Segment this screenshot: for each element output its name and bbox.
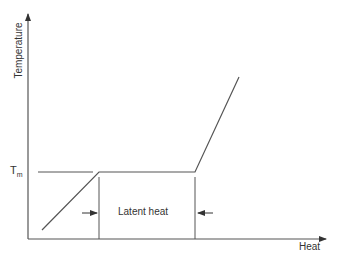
tm-label-sub: m (17, 171, 23, 178)
x-axis-label: Heat (299, 241, 320, 252)
latent-heat-label: Latent heat (118, 206, 168, 217)
tm-label: Tm (10, 164, 23, 178)
y-axis-label: Temperature (13, 21, 24, 81)
phase-change-diagram (0, 0, 338, 263)
tm-label-main: T (10, 164, 17, 176)
